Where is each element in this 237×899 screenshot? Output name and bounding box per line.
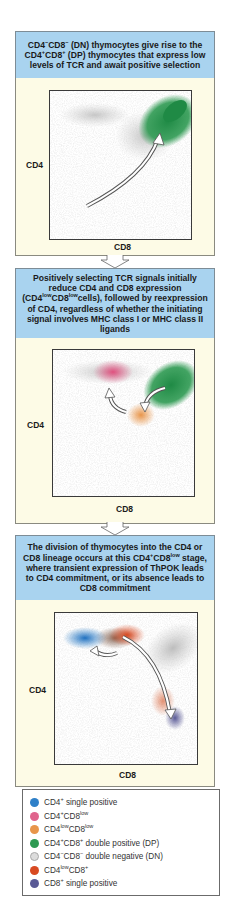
legend-label: CD4−CD8− double negative (DN): [44, 852, 163, 861]
panel-1-body: CD4 CD8: [15, 78, 215, 256]
double-negative-swatch-icon: [30, 852, 39, 861]
cd4-single-positive-swatch-icon: [30, 798, 39, 807]
cd4low-cd8low-swatch-icon: [30, 825, 39, 834]
panel-1-flow-plot: [49, 90, 192, 240]
legend-item-cd4low-cd8pos: CD4lowCD8+: [30, 864, 219, 878]
panel-3-y-axis-label: CD4: [29, 685, 46, 695]
legend-item-double-negative: CD4−CD8− double negative (DN): [30, 850, 219, 864]
panel-2-x-axis-label: CD8: [116, 504, 133, 514]
cd4low-cd8pos-swatch-icon: [30, 866, 39, 875]
panel-3-scatter: [55, 613, 198, 765]
legend-item-double-positive: CD4+CD8+ double positive (DP): [30, 837, 219, 851]
panel-3-flow-plot: [54, 612, 198, 765]
down-arrow-2: [100, 522, 130, 536]
panel-1-header: CD4−CD8− (DN) thymocytes give rise to th…: [15, 31, 215, 79]
panel-3-header-text: The division of thymocytes into the CD4 …: [22, 542, 208, 593]
legend-label: CD4+ single positive: [44, 798, 117, 807]
panel-1-x-axis-label: CD8: [114, 242, 131, 252]
double-positive-swatch-icon: [30, 839, 39, 848]
cd8-single-positive-swatch-icon: [30, 879, 39, 888]
panel-2-y-axis-label: CD4: [27, 420, 44, 430]
legend-item-cd8-single-positive: CD8+ single positive: [30, 877, 219, 891]
legend-item-cd4-single-positive: CD4+ single positive: [30, 796, 219, 810]
legend-item-cd4low-cd8low: CD4lowCD8low: [30, 823, 219, 837]
panel-2-header-text: Positively selecting TCR signals initial…: [22, 273, 208, 334]
down-arrow-1: [100, 255, 130, 269]
panel-2-header: Positively selecting TCR signals initial…: [15, 268, 215, 339]
panel-2-flow-plot: [52, 349, 195, 497]
panel-1-y-axis-label: CD4: [26, 160, 43, 170]
legend-label: CD8+ single positive: [44, 879, 117, 888]
panel-1-scatter: [50, 91, 192, 240]
panel-2-body: CD4 CD8: [15, 338, 215, 524]
legend-label: CD4+CD8+ double positive (DP): [44, 839, 159, 848]
panel-3-body: CD4 CD8: [15, 600, 215, 787]
legend-label: CD4lowCD8low: [44, 825, 93, 834]
legend-item-cd4pos-cd8low: CD4+CD8low: [30, 810, 219, 824]
panel-3-x-axis-label: CD8: [119, 770, 136, 780]
panel-1-header-text: CD4−CD8− (DN) thymocytes give rise to th…: [22, 40, 208, 71]
cd4pos-cd8low-swatch-icon: [30, 812, 39, 821]
panel-2-scatter: [53, 350, 195, 497]
legend-label: CD4+CD8low: [44, 812, 88, 821]
legend: CD4+ single positive CD4+CD8low CD4lowCD…: [22, 789, 220, 896]
legend-label: CD4lowCD8+: [44, 866, 88, 875]
panel-3-header: The division of thymocytes into the CD4 …: [15, 535, 215, 601]
